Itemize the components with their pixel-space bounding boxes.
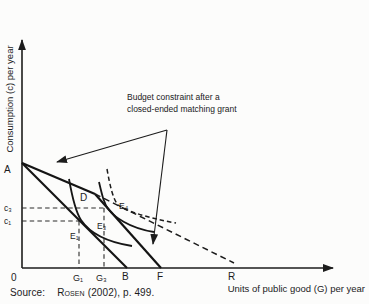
axis-tick-r: R: [228, 271, 235, 282]
budget-line-ad: [22, 163, 95, 194]
indifference-curve-e4-dashed: [107, 169, 176, 223]
point-label-d: D: [80, 192, 87, 203]
figure-page: Budget constraint after a closed-ended m…: [0, 0, 369, 304]
source-citation: Source:Rosen(2002), p. 499.: [10, 287, 154, 298]
axis-tick-g1: G₁: [73, 273, 83, 283]
source-label: Source:: [10, 287, 45, 298]
point-label-a: A: [4, 164, 11, 175]
budget-line-ab: [22, 163, 127, 268]
axis-tick-f: F: [157, 271, 163, 282]
x-axis-title: Units of public good (G) per year: [228, 283, 365, 294]
annotation-line2: closed-ended matching grant: [127, 104, 237, 114]
economics-diagram: Budget constraint after a closed-ended m…: [0, 0, 369, 304]
y-axis-title: Consumption (c) per year: [4, 45, 15, 152]
axis-tick-origin: 0: [11, 272, 17, 283]
axis-tick-g3: G₃: [96, 273, 107, 283]
axis-tick-c1: c₁: [4, 216, 11, 226]
matching-grant-extension-dr: [95, 194, 234, 263]
axis-tick-b: B: [122, 271, 129, 282]
annotation-line1: Budget constraint after a: [127, 92, 220, 102]
point-label-e3: E₃: [97, 221, 106, 231]
axis-tick-c3: c₃: [4, 203, 12, 213]
point-label-e4: E₄: [119, 201, 129, 211]
source-reference: (2002), p. 499.: [88, 287, 155, 298]
point-label-e1: E₁: [70, 231, 79, 241]
annotation-arrow-to-ad: [57, 130, 167, 162]
source-author: Rosen: [57, 287, 85, 298]
